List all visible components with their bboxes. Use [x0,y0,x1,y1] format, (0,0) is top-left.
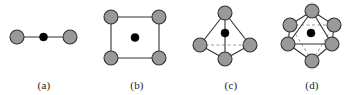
center-atom-node [131,34,139,42]
ligand-node [305,54,319,68]
center-atom-node [307,29,315,37]
panel-b-nodes [104,10,166,65]
panel-d-caption: (d) [276,79,348,91]
ligand-node [218,52,232,66]
ligand-node [152,51,166,65]
panel-d-nodes [281,4,341,68]
panel-b-diagram [88,0,186,80]
ligand-node [327,18,341,32]
panel-d-diagram [276,0,348,80]
panel-a-diagram [0,0,88,80]
ligand-node [243,38,257,52]
center-atom-node [40,33,48,41]
panel-c-nodes [193,6,257,66]
panel-c-diagram [186,0,276,80]
ligand-node [325,37,339,51]
panel-b-caption: (b) [88,79,186,91]
ligand-node [281,37,295,51]
ligand-node [104,10,118,24]
panel-b-square-planar: (b) [88,0,186,95]
ligand-node [305,4,319,18]
ligand-node [218,6,232,20]
ligand-node [104,51,118,65]
ligand-node [152,10,166,24]
panel-a-nodes [10,30,77,44]
center-atom-node [221,29,229,37]
panel-a-linear: (a) [0,0,88,95]
figure-root: (a) (b) (c) (d) [0,0,348,95]
ligand-node [10,30,24,44]
ligand-node [283,18,297,32]
ligand-node [193,38,207,52]
panel-a-caption: (a) [0,79,88,91]
panel-c-tetrahedral: (c) [186,0,276,95]
panel-c-caption: (c) [186,79,276,91]
ligand-node [63,30,77,44]
panel-d-octahedral: (d) [276,0,348,95]
